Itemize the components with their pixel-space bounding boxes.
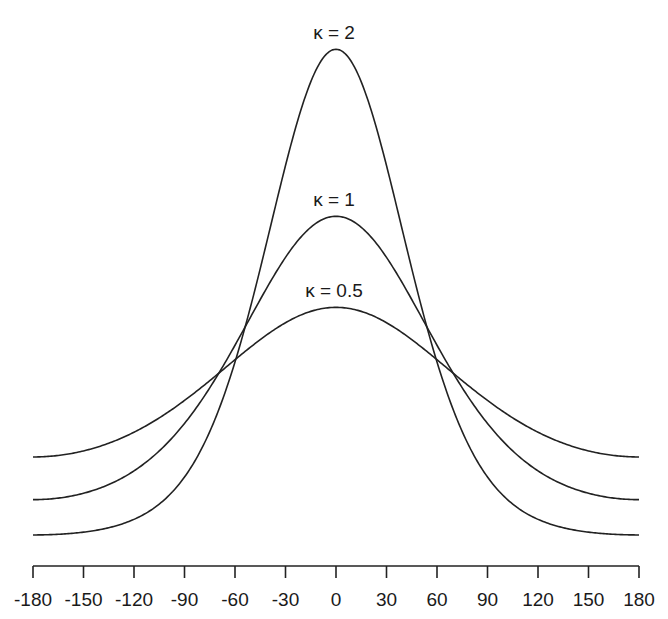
von-mises-chart: κ = 2κ = 1κ = 0.5 -180-150-120-90-60-300… [0,0,668,619]
x-tick-label: 180 [623,589,655,610]
x-tick-label: 120 [522,589,554,610]
x-tick-label: 30 [376,589,397,610]
x-tick-label: 0 [331,589,342,610]
x-tick-label: -90 [171,589,198,610]
curve-kappa-1 [33,216,639,499]
x-tick-label: 90 [477,589,498,610]
x-axis: -180-150-120-90-60-300306090120150180 [14,566,655,610]
x-tick-label: 150 [573,589,605,610]
x-tick-label: -180 [14,589,52,610]
x-tick-label: -60 [221,589,248,610]
curve-label-kappa-1: κ = 1 [313,189,355,210]
x-tick-label: 60 [426,589,447,610]
curve-labels-group: κ = 2κ = 1κ = 0.5 [305,22,363,301]
x-tick-label: -120 [115,589,153,610]
x-tick-label: -30 [272,589,299,610]
x-tick-label: -150 [64,589,102,610]
curve-label-kappa-2: κ = 2 [313,22,355,43]
curve-label-kappa-0-5: κ = 0.5 [305,280,363,301]
curve-kappa-0-5 [33,307,639,457]
